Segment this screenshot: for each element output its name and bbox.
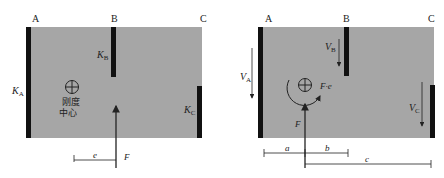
force-label: F [123, 152, 130, 162]
stiffness-center-icon [299, 79, 312, 92]
moment-label: F·e [319, 81, 332, 91]
label-b: B [343, 13, 350, 24]
wall-a [258, 27, 263, 138]
label-b: B [111, 13, 118, 24]
label-a: A [32, 13, 40, 24]
center-label-2: 中心 [59, 107, 77, 118]
dimension-a-label: a [285, 143, 290, 153]
right-panel: A B C VA VB VC F·e F a b c [240, 13, 435, 168]
force-label: F [294, 119, 301, 129]
diagram-canvas: A B C KA KB KC 刚度 中心 F e A B C VA VB [0, 0, 444, 178]
wall-b [344, 27, 349, 76]
wall-b [111, 27, 116, 77]
stiffness-center-icon [66, 81, 79, 94]
dimension-b-label: b [325, 143, 330, 153]
left-panel: A B C KA KB KC 刚度 中心 F e [11, 13, 207, 168]
dimension-a-b [264, 149, 348, 157]
center-label-1: 刚度 [62, 96, 80, 107]
eccentricity-label: e [93, 150, 97, 160]
label-c: C [200, 13, 207, 24]
stiffness-ka: KA [11, 85, 24, 98]
dimension-c-label: c [365, 154, 369, 164]
shear-va: VA [240, 71, 251, 84]
wall-c [197, 86, 202, 138]
wall-a [26, 27, 31, 138]
label-c: C [428, 13, 435, 24]
label-a: A [265, 13, 273, 24]
wall-c [430, 85, 435, 138]
